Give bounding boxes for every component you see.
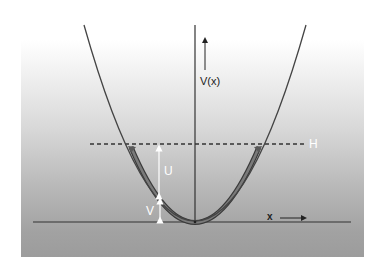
vertex-point xyxy=(194,221,197,224)
x-axis-label: x xyxy=(267,211,273,222)
kinetic-U-label: U xyxy=(164,166,173,177)
energy-H-label: H xyxy=(309,139,318,150)
potential-V-label: V xyxy=(146,206,154,217)
potential-well-diagram: V(x) x H U V xyxy=(0,0,381,269)
y-axis-label: V(x) xyxy=(200,76,220,87)
diagram-graphics xyxy=(0,0,381,269)
